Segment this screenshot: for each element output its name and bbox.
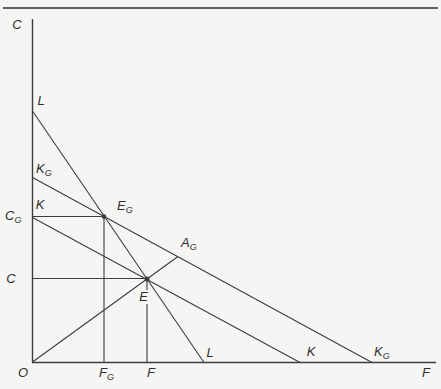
point-E-dot	[145, 277, 150, 282]
label-KG-y-axis: KG	[36, 161, 52, 178]
x-axis-title: F	[422, 365, 431, 380]
economics-diagram: C F O L KG K CG C EG AG E FG F L K KG	[0, 0, 441, 389]
budget-line-KGKG	[33, 178, 373, 363]
label-K-x-axis: K	[307, 344, 317, 359]
figure-page: C F O L KG K CG C EG AG E FG F L K KG	[0, 0, 441, 389]
label-F-coordinate: F	[147, 365, 156, 380]
label-FG-coordinate: FG	[99, 365, 114, 382]
origin-label: O	[18, 365, 28, 380]
budget-line-KK	[33, 218, 301, 363]
ray-O-E-AG	[33, 257, 179, 363]
label-CG-coordinate: CG	[5, 208, 21, 225]
label-C-coordinate: C	[6, 271, 16, 286]
label-KG-x-axis: KG	[374, 344, 390, 361]
label-L-x-axis: L	[206, 345, 213, 360]
label-EG-point: EG	[117, 198, 133, 215]
budget-line-LL	[33, 111, 205, 363]
y-axis-title: C	[12, 17, 22, 32]
label-AG-point: AG	[180, 235, 197, 252]
label-L-y-axis: L	[37, 93, 44, 108]
label-E-point: E	[139, 289, 148, 304]
point-EG-dot	[102, 214, 107, 219]
label-K-y-axis: K	[36, 197, 46, 212]
